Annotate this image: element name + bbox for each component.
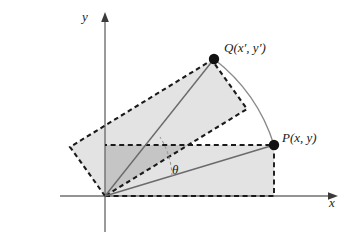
point-Q-label: Q(x′, y′): [224, 41, 266, 54]
y-axis-arrowhead: [101, 12, 109, 22]
point-P-name: P: [282, 130, 290, 145]
rotation-diagram: y x θ Q(x′, y′) P(x, y): [0, 0, 355, 249]
point-Q-name: Q: [224, 40, 233, 55]
point-P-marker: [269, 140, 279, 150]
point-P-label: P(x, y): [282, 131, 317, 144]
point-Q-marker: [209, 54, 219, 64]
theta-label: θ: [172, 163, 178, 176]
point-Q-close-paren: ): [261, 40, 265, 55]
x-axis-label: x: [329, 196, 335, 209]
y-axis-label: y: [82, 10, 88, 23]
point-P-close-paren: ): [312, 130, 316, 145]
diagram-canvas: [0, 0, 355, 249]
